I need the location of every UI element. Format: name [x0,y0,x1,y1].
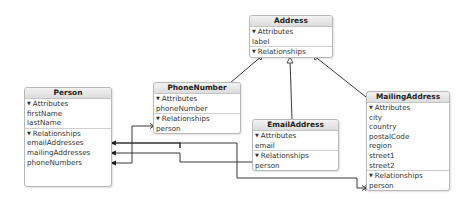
relationship-person[interactable]: person [255,161,338,171]
entity-person[interactable]: Person ▼Attributes firstName lastName ▼R… [24,87,112,187]
disclosure-triangle-icon: ▼ [255,132,259,138]
relationship-emailaddresses[interactable]: emailAddresses [27,138,111,148]
model-editor-canvas[interactable]: Address ▼Attributes label ▼Relationships… [0,0,469,202]
relationship-person[interactable]: person [156,124,240,134]
disclosure-triangle-icon: ▼ [255,152,259,158]
relationship-mailingaddresses[interactable]: mailingAddresses [27,148,111,158]
attribute-country[interactable]: country [369,122,449,132]
entity-title: Person [25,88,111,99]
disclosure-triangle-icon: ▼ [252,28,256,34]
disclosure-triangle-icon: ▼ [156,115,160,121]
attribute-firstname[interactable]: firstName [27,109,111,119]
relationships-section-header[interactable]: ▼Relationships [369,171,449,181]
attribute-phonenumber[interactable]: phoneNumber [156,104,240,114]
relationships-section-header[interactable]: ▼Relationships [156,114,240,124]
attributes-section-header[interactable]: ▼Attributes [27,99,111,109]
entity-emailaddress[interactable]: EmailAddress ▼Attributes email ▼Relation… [252,119,339,171]
inheritance-line-mailingaddress [313,55,366,97]
attribute-lastname[interactable]: lastName [27,118,111,128]
entity-title: PhoneNumber [154,83,240,94]
attribute-street1[interactable]: street1 [369,151,449,161]
relationships-section-header[interactable]: ▼Relationships [27,129,111,139]
attribute-region[interactable]: region [369,141,449,151]
attribute-label[interactable]: label [252,37,332,47]
inheritance-line-emailaddress [290,59,292,120]
relationship-person[interactable]: person [369,181,449,191]
attributes-section-header[interactable]: ▼Attributes [369,103,449,113]
attribute-email[interactable]: email [255,141,338,151]
disclosure-triangle-icon: ▼ [156,95,160,101]
entity-mailingaddress[interactable]: MailingAddress ▼Attributes city country … [366,91,450,191]
attribute-postalcode[interactable]: postalCode [369,132,449,142]
entity-title: MailingAddress [367,92,449,103]
relationship-phonenumbers[interactable]: phoneNumbers [27,158,111,168]
disclosure-triangle-icon: ▼ [252,48,256,54]
attributes-section-header[interactable]: ▼Attributes [156,94,240,104]
relationships-section-header[interactable]: ▼Relationships [252,47,332,57]
entity-address[interactable]: Address ▼Attributes label ▼Relationships [249,15,333,58]
entity-phonenumber[interactable]: PhoneNumber ▼Attributes phoneNumber ▼Rel… [153,82,241,134]
relationships-section-header[interactable]: ▼Relationships [255,151,338,161]
attribute-street2[interactable]: street2 [369,161,449,171]
attributes-section-header[interactable]: ▼Attributes [255,131,338,141]
disclosure-triangle-icon: ▼ [27,130,31,136]
entity-title: Address [250,16,332,27]
disclosure-triangle-icon: ▼ [369,172,373,178]
entity-title: EmailAddress [253,120,338,131]
disclosure-triangle-icon: ▼ [369,104,373,110]
disclosure-triangle-icon: ▼ [27,100,31,106]
attribute-city[interactable]: city [369,113,449,123]
attributes-section-header[interactable]: ▼Attributes [252,27,332,37]
